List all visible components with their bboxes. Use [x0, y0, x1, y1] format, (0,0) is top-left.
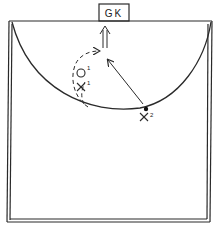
svg-text:1: 1	[87, 80, 91, 86]
player-o1: 1	[77, 65, 91, 77]
ball-dot	[144, 107, 148, 111]
pass-arrow	[108, 60, 143, 104]
svg-text:1: 1	[87, 65, 91, 71]
dashed-run-path	[73, 51, 99, 107]
court-diagram: GK 1 1 2	[0, 0, 216, 233]
goal-box: GK	[99, 4, 129, 21]
court-outline	[7, 21, 212, 222]
shot-double-arrow	[100, 26, 110, 48]
goal-area-arc	[12, 22, 211, 109]
svg-text:2: 2	[150, 112, 154, 118]
player-x2: 2	[140, 112, 154, 121]
goal-label: GK	[105, 8, 123, 19]
player-x1: 1	[77, 80, 91, 91]
